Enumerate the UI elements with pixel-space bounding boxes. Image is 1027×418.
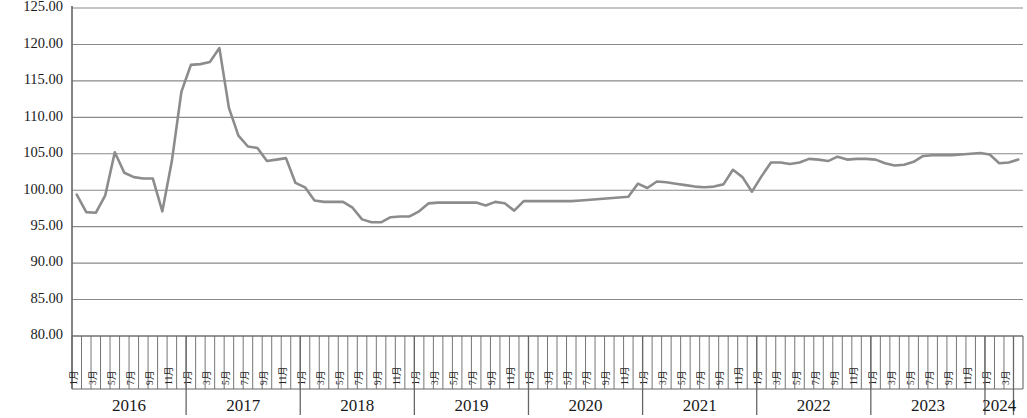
y-axis-tick-label: 95.00 [30, 217, 63, 233]
x-axis-month-label: 9月 [830, 370, 840, 385]
x-axis-month-label: 11月 [164, 366, 174, 385]
x-axis-month-label: 9月 [487, 370, 497, 385]
x-axis-year-label: 2016 [112, 396, 146, 415]
x-axis-year-label: 2021 [683, 396, 717, 415]
x-axis-month-label: 11月 [620, 366, 630, 385]
y-axis-tick-label: 125.00 [23, 0, 63, 14]
x-axis-month-label: 7月 [811, 370, 821, 385]
y-axis: 125.00120.00115.00110.00105.00100.0095.0… [23, 0, 72, 389]
x-axis-month-label: 5月 [563, 370, 573, 385]
y-axis-tick-label: 115.00 [24, 71, 63, 87]
x-axis-month-label: 7月 [240, 370, 250, 385]
x-axis-month-label: 7月 [468, 370, 478, 385]
x-axis-month-label: 9月 [145, 370, 155, 385]
x-axis-month-label: 11月 [734, 366, 744, 385]
x-axis-month-label: 1月 [639, 370, 649, 385]
x-axis-month-label: 5月 [449, 370, 459, 385]
x-axis-year-label: 2022 [797, 396, 831, 415]
x-axis-month-label: 5月 [335, 370, 345, 385]
x-axis-month-label: 11月 [392, 366, 402, 385]
x-axis-year-label: 2020 [569, 396, 603, 415]
x-axis-year-label: 2017 [226, 396, 261, 415]
x-axis-month-label: 1月 [183, 370, 193, 385]
x-axis-month-label: 3月 [544, 370, 554, 385]
y-axis-tick-label: 85.00 [30, 290, 63, 306]
x-axis-month-label: 3月 [887, 370, 897, 385]
x-axis-year-label: 2024 [982, 396, 1017, 415]
x-axis-month-label: 3月 [316, 370, 326, 385]
data-line [77, 48, 1019, 222]
x-axis-month-label: 1月 [868, 370, 878, 385]
x-axis-month-label: 11月 [849, 366, 859, 385]
x-axis-month-label: 3月 [772, 370, 782, 385]
x-axis-month-label: 5月 [107, 370, 117, 385]
x-axis-month-label: 7月 [126, 370, 136, 385]
x-axis-year-label: 2023 [911, 396, 945, 415]
x-axis-month-label: 1月 [982, 370, 992, 385]
x-axis-month-label: 7月 [582, 370, 592, 385]
series-line [77, 48, 1019, 222]
x-axis-month-label: 1月 [297, 370, 307, 385]
x-axis-month-label: 5月 [677, 370, 687, 385]
x-axis-month-label: 9月 [373, 370, 383, 385]
x-axis-month-label: 1月 [525, 370, 535, 385]
y-axis-tick-label: 90.00 [30, 253, 63, 269]
x-axis-month-label: 3月 [658, 370, 668, 385]
x-axis-month-label: 3月 [430, 370, 440, 385]
x-axis-month-label: 11月 [963, 366, 973, 385]
y-axis-tick-label: 110.00 [24, 108, 63, 124]
x-axis-month-label: 3月 [1001, 370, 1011, 385]
line-chart-container: 125.00120.00115.00110.00105.00100.0095.0… [0, 0, 1027, 418]
x-axis-month-label: 3月 [202, 370, 212, 385]
x-axis-month-label: 5月 [906, 370, 916, 385]
y-axis-tick-label: 105.00 [23, 144, 63, 160]
x-axis-month-label: 1月 [411, 370, 421, 385]
x-axis-month-label: 7月 [696, 370, 706, 385]
x-axis-month-label: 5月 [792, 370, 802, 385]
x-axis-month-label: 7月 [354, 370, 364, 385]
chart-canvas: 125.00120.00115.00110.00105.00100.0095.0… [0, 0, 1027, 418]
x-axis-month-label: 9月 [259, 370, 269, 385]
y-axis-tick-label: 100.00 [23, 181, 63, 197]
x-axis-month-ticks: 1月3月5月7月9月11月1月3月5月7月9月11月1月3月5月7月9月11月1… [69, 336, 1023, 389]
x-axis-month-label: 9月 [601, 370, 611, 385]
x-axis-month-label: 7月 [925, 370, 935, 385]
y-axis-tick-label: 80.00 [30, 326, 63, 342]
x-axis-month-label: 11月 [278, 366, 288, 385]
x-axis-month-label: 9月 [944, 370, 954, 385]
x-axis-month-label: 1月 [753, 370, 763, 385]
x-axis-month-label: 11月 [506, 366, 516, 385]
x-axis-month-label: 9月 [715, 370, 725, 385]
x-axis-month-label: 3月 [88, 370, 98, 385]
y-axis-tick-label: 120.00 [23, 35, 63, 51]
x-axis-year-label: 2018 [340, 396, 374, 415]
x-axis-month-label: 1月 [69, 370, 79, 385]
x-axis-year-label: 2019 [454, 396, 488, 415]
x-axis-month-label: 5月 [221, 370, 231, 385]
